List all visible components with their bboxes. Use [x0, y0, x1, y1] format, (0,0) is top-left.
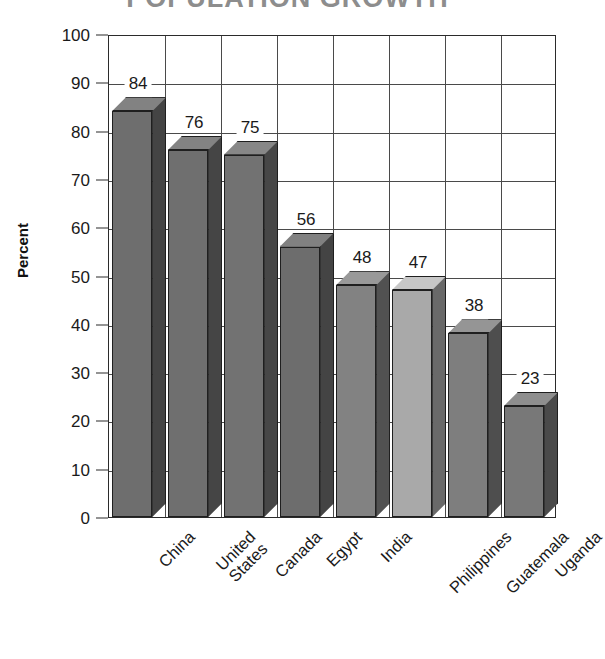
bar-value-label: 56 — [293, 210, 320, 229]
bar-value-label: 76 — [181, 113, 208, 132]
y-axis-tick-mark — [96, 276, 108, 277]
gridline-horizontal — [109, 84, 555, 85]
y-axis-tick-label: 0 — [44, 510, 90, 527]
y-axis-tick-label: 90 — [44, 75, 90, 92]
bar-front-face — [280, 247, 320, 517]
x-axis-tick-label: Canada — [272, 528, 325, 581]
x-axis-tick-label: India — [377, 528, 415, 566]
y-axis-tick-mark — [96, 228, 108, 229]
bar-front-face — [168, 150, 208, 517]
bar-front-face — [448, 333, 488, 517]
y-axis-tick-mark — [96, 518, 108, 519]
y-axis-tick-mark — [96, 421, 108, 422]
y-axis-tick-label: 20 — [44, 413, 90, 430]
bar-side-face — [488, 319, 502, 517]
bar-side-face — [432, 276, 446, 517]
y-axis-tick-label: 40 — [44, 316, 90, 333]
x-axis-tick-label-line: China — [155, 528, 198, 571]
bar-value-label: 84 — [125, 74, 152, 93]
y-axis-tick-mark — [96, 179, 108, 180]
y-axis-tick-label: 30 — [44, 365, 90, 382]
y-axis-title: Percent — [14, 223, 31, 278]
bar-side-face — [264, 141, 278, 517]
y-axis-tick-label: 10 — [44, 461, 90, 478]
x-axis-tick-label-line: Egypt — [323, 528, 365, 570]
y-axis-tick-label: 100 — [44, 27, 90, 44]
x-axis-tick-label: UnitedStates — [213, 528, 271, 586]
gridline-horizontal — [109, 133, 555, 134]
bar-canada[interactable] — [224, 155, 264, 517]
bar-value-label: 75 — [237, 118, 264, 137]
y-axis-tick-mark — [96, 35, 108, 36]
bar-guatemala[interactable] — [448, 333, 488, 517]
bar-egypt[interactable] — [280, 247, 320, 517]
y-axis-tick-mark — [96, 373, 108, 374]
x-axis-tick-label-line: India — [377, 528, 415, 566]
bar-india[interactable] — [336, 285, 376, 517]
y-axis-tick-mark — [96, 131, 108, 132]
bar-front-face — [112, 111, 152, 517]
y-axis-tick-mark — [96, 83, 108, 84]
bar-philippines[interactable] — [392, 290, 432, 517]
chart-title-clipped: POPULATION GROWTH — [0, 0, 575, 7]
bar-value-label: 48 — [349, 248, 376, 267]
bar-front-face — [336, 285, 376, 517]
bar-value-label: 47 — [405, 253, 432, 272]
bar-value-label: 23 — [517, 369, 544, 388]
bar-side-face — [544, 392, 558, 517]
y-axis-tick-mark — [96, 469, 108, 470]
bar-side-face — [320, 233, 334, 517]
bar-side-face — [376, 271, 390, 517]
bar-front-face — [392, 290, 432, 517]
y-axis-tick-label: 80 — [44, 123, 90, 140]
bar-value-label: 38 — [461, 296, 488, 315]
x-axis-tick-label: Egypt — [323, 528, 365, 570]
bar-side-face — [208, 136, 222, 517]
bar-side-face — [152, 97, 166, 517]
bar-united-states[interactable] — [168, 150, 208, 517]
x-axis-tick-label-line: Canada — [272, 528, 325, 581]
plot-area — [108, 35, 556, 518]
y-axis-tick-label: 50 — [44, 268, 90, 285]
bar-front-face — [504, 406, 544, 517]
y-axis-tick-mark — [96, 324, 108, 325]
bar-uganda[interactable] — [504, 406, 544, 517]
y-axis-tick-label: 60 — [44, 220, 90, 237]
bar-front-face — [224, 155, 264, 517]
y-axis-tick-label: 70 — [44, 171, 90, 188]
x-axis-tick-label: China — [155, 528, 198, 571]
bar-china[interactable] — [112, 111, 152, 517]
